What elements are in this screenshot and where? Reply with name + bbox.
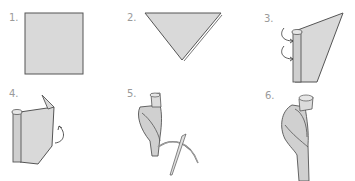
step-1: 1. (0, 0, 118, 88)
step-2: 2. (120, 0, 238, 88)
square-paper-icon (0, 0, 118, 88)
folded-triangle-icon (120, 0, 238, 88)
wrapped-stem-with-needle-icon (120, 85, 238, 181)
step-6: 6. (235, 85, 355, 181)
step-4: 4. (0, 85, 118, 181)
roll-arrow-icon (282, 28, 293, 61)
step-5: 5. (120, 85, 238, 181)
rolled-edge-icon (235, 0, 355, 88)
finished-shape-icon (235, 85, 355, 181)
needle-icon (170, 134, 186, 175)
fold-back-icon (0, 85, 118, 181)
step-3: 3. (235, 0, 355, 88)
curved-arrow-icon (55, 126, 64, 143)
